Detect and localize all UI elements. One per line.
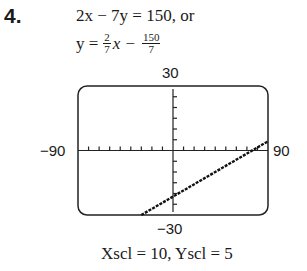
plotted-line	[141, 141, 268, 215]
calculator-graph	[0, 0, 307, 271]
axes	[78, 89, 268, 212]
scale-settings: Xscl = 10, Yscl = 5	[101, 244, 233, 264]
